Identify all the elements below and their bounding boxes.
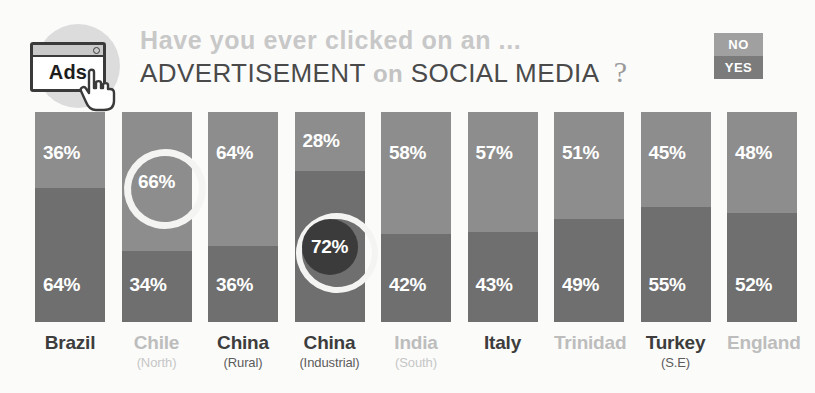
bar-segment-yes-value: 42% [389,274,426,296]
stacked-bar: 58%42% [381,112,451,322]
ads-browser-window-icon: Ads [28,20,120,112]
bar-segment-no: 36% [35,112,105,188]
country-sublabel: (Industrial) [295,354,365,371]
headline: Have you ever clicked on an ... ADVERTIS… [140,26,700,90]
pointing-hand-cursor-icon [76,66,118,112]
bar-column: 36%64%Brazil [35,112,105,322]
bar-column: 28%72%China(Industrial) [295,112,365,322]
bar-segment-yes-value: 64% [43,274,80,296]
bar-segment-yes: 55% [641,207,711,322]
bar-segment-no-value: 64% [216,142,253,164]
stacked-bar-chart: 36%64%Brazil34%66%Chile(North)64%36%Chin… [0,112,815,393]
bar-segment-no: 57% [468,112,538,232]
country-name: China [295,332,365,354]
headline-line-1: Have you ever clicked on an ... [140,26,700,54]
bar-segment-yes-value: 36% [216,274,253,296]
country-name: Chile [122,332,192,354]
country-name: China [208,332,278,354]
country-sublabel: (S.E) [641,354,711,371]
bar-column: 34%66%Chile(North) [122,112,192,322]
bar-segment-yes-value: 34% [130,274,167,296]
bar-segment-no: 51% [554,112,624,219]
country-label: Turkey(S.E) [641,332,711,371]
headline-advertisement: ADVERTISEMENT [140,58,365,88]
country-label: England [727,332,797,354]
country-label: Italy [468,332,538,354]
stacked-bar: 36%64% [35,112,105,322]
country-name: Italy [468,332,538,354]
highlighted-value-yes: 72% [296,236,364,258]
highlighted-value-no: 66% [123,171,191,193]
bar-segment-yes: 36% [208,246,278,322]
country-sublabel: (North) [122,354,192,371]
stacked-bar: 64%36% [208,112,278,322]
browser-close-dot-icon [93,47,100,54]
bar-segment-no-value: 57% [476,142,513,164]
country-name: Brazil [35,332,105,354]
infographic-root: Ads Have you ever clicked on an ... ADVE… [0,0,815,393]
headline-social-media: SOCIAL MEDIA [411,58,598,88]
bar-column: 48%52%England [727,112,797,322]
bar-segment-yes: 64% [35,188,105,322]
bar-segment-no-value: 51% [562,142,599,164]
bar-segment-no-value: 58% [389,142,426,164]
bar-column: 58%42%India(South) [381,112,451,322]
bar-segment-no: 64% [208,112,278,246]
legend-item-yes: YES [714,56,763,79]
bar-segment-no-value: 36% [43,142,80,164]
country-name: England [727,332,797,354]
country-label: China(Industrial) [295,332,365,371]
stacked-bar: 45%55% [641,112,711,322]
bar-segment-yes: 43% [468,232,538,322]
country-name: Turkey [641,332,711,354]
bar-segment-yes: 52% [727,213,797,322]
headline-connector: on [373,60,403,87]
header: Ads Have you ever clicked on an ... ADVE… [0,0,815,112]
country-label: Trinidad [554,332,624,354]
bar-segment-yes-value: 49% [562,274,599,296]
country-label: India(South) [381,332,451,371]
country-label: China(Rural) [208,332,278,371]
legend-item-no: NO [714,33,763,56]
browser-titlebar [33,45,103,57]
bar-column: 51%49%Trinidad [554,112,624,322]
bar-segment-yes: 34% [122,251,192,322]
bar-column: 45%55%Turkey(S.E) [641,112,711,322]
bar-segment-no-value: 48% [735,142,772,164]
headline-line-2: ADVERTISEMENT on SOCIAL MEDIA ? [140,56,700,90]
country-name: India [381,332,451,354]
bar-segment-no: 45% [641,112,711,207]
headline-question-mark: ? [614,55,628,88]
bar-segment-no: 48% [727,112,797,213]
bar-segment-yes: 49% [554,219,624,322]
bar-segment-yes-value: 43% [476,274,513,296]
bar-segment-yes: 42% [381,234,451,322]
legend: NO YES [714,33,763,79]
stacked-bar: 51%49% [554,112,624,322]
bar-segment-yes-value: 55% [649,274,686,296]
bar-segment-no-value: 28% [303,130,340,152]
stacked-bar: 28%72% [295,112,365,322]
bar-column: 57%43%Italy [468,112,538,322]
country-name: Trinidad [554,332,624,354]
bar-segment-no-value: 45% [649,142,686,164]
country-sublabel: (South) [381,354,451,371]
stacked-bar: 34%66% [122,112,192,322]
bar-segment-no: 28% [295,112,365,171]
country-label: Chile(North) [122,332,192,371]
bar-segment-no: 58% [381,112,451,234]
bar-column: 64%36%China(Rural) [208,112,278,322]
country-sublabel: (Rural) [208,354,278,371]
bar-segment-yes-value: 52% [735,274,772,296]
stacked-bar: 48%52% [727,112,797,322]
stacked-bar: 57%43% [468,112,538,322]
country-label: Brazil [35,332,105,354]
